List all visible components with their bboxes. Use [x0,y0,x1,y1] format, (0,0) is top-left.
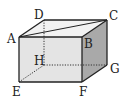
vertex-label-c: C [109,9,118,23]
vertex-label-g: G [110,62,120,76]
vertex-label-e: E [12,85,21,99]
vertex-label-a: A [6,32,16,46]
vertex-label-f: F [79,85,87,99]
vertex-label-d: D [34,8,44,22]
vertex-label-b: B [84,37,93,51]
front-face-ABFE [19,37,82,82]
vertex-label-h: H [34,54,44,68]
cuboid-diagram: A B C D E F G H [0,0,126,106]
cuboid-figure: A B C D E F G H [0,0,126,106]
